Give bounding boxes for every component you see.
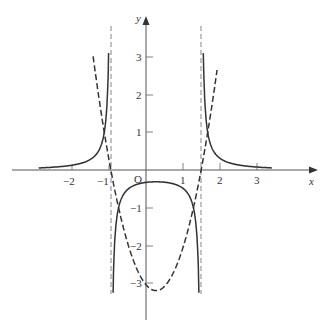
x-ticks bbox=[72, 163, 257, 170]
x-axis-label: x bbox=[308, 175, 314, 187]
curves bbox=[39, 53, 272, 293]
x-axis-arrow-icon bbox=[309, 167, 318, 174]
reciprocal-right-branch bbox=[203, 53, 271, 168]
x-tick-label: 3 bbox=[254, 174, 260, 186]
y-axis-label: y bbox=[135, 12, 141, 24]
x-tick-label: 2 bbox=[217, 174, 223, 186]
plot-canvas: y x O −2 −1 1 2 3 3 2 1 −1 −2 −3 bbox=[0, 0, 323, 330]
x-tick-label: 1 bbox=[180, 174, 186, 186]
y-tick-label: 1 bbox=[136, 126, 142, 138]
y-tick-label: −3 bbox=[130, 277, 142, 289]
y-tick-label: 3 bbox=[136, 51, 142, 63]
x-tick-label: −1 bbox=[97, 175, 109, 187]
y-tick-label: 2 bbox=[136, 89, 142, 101]
y-tick-label: −1 bbox=[130, 202, 142, 214]
y-tick-label: −2 bbox=[130, 240, 142, 252]
y-axis-arrow-icon bbox=[143, 16, 150, 25]
chart-figure: y x O −2 −1 1 2 3 3 2 1 −1 −2 −3 bbox=[0, 0, 323, 330]
x-tick-label: −2 bbox=[63, 175, 75, 187]
reciprocal-left-branch bbox=[39, 53, 109, 168]
